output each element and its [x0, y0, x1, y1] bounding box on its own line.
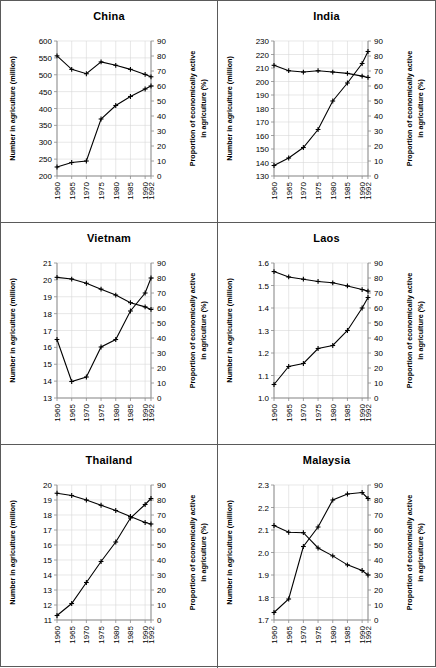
data-point-china-0-4 — [113, 63, 118, 68]
y-tick-left-china-1: 250 — [39, 155, 53, 164]
y-tick-right-laos-5: 50 — [374, 319, 383, 328]
data-point-malaysia-0-1 — [286, 530, 291, 535]
data-point-malaysia-1-5 — [345, 492, 350, 497]
plot-area-thailand: 1112131415161718192001020304050607080901… — [1, 445, 217, 668]
y-axis-right-title-india: Proportion of economically active — [405, 51, 414, 166]
x-tick-china-3: 1975 — [97, 181, 106, 199]
y-tick-left-malaysia-4: 2.1 — [258, 526, 270, 535]
y-tick-right-malaysia-3: 30 — [374, 571, 383, 580]
y-tick-left-laos-5: 1.5 — [258, 282, 270, 291]
y-tick-left-thailand-3: 14 — [43, 571, 52, 580]
y-tick-right-vietnam-8: 80 — [157, 274, 166, 283]
y-tick-left-malaysia-6: 2.3 — [258, 481, 270, 490]
y-tick-left-thailand-4: 15 — [43, 556, 52, 565]
x-tick-india-1: 1965 — [285, 181, 294, 199]
y-tick-left-india-4: 170 — [256, 118, 270, 127]
y-tick-left-laos-0: 1.0 — [258, 394, 270, 403]
y-tick-right-laos-2: 20 — [374, 364, 383, 373]
y-tick-right-china-6: 60 — [157, 82, 166, 91]
data-point-malaysia-0-4 — [330, 553, 335, 558]
y-tick-left-china-0: 200 — [39, 172, 53, 181]
data-point-vietnam-0-6 — [143, 304, 148, 309]
x-tick-vietnam-3: 1975 — [97, 403, 106, 421]
panel-laos: Laos 1.01.11.21.31.41.51.601020304050607… — [218, 223, 435, 445]
data-point-india-0-1 — [286, 68, 291, 73]
x-tick-india-7: 1992 — [364, 181, 373, 199]
y-tick-right-china-3: 30 — [157, 127, 166, 136]
chart-svg-thailand: 1112131415161718192001020304050607080901… — [1, 445, 218, 668]
y-axis-right-title-laos: Proportion of economically active — [405, 273, 414, 388]
y-tick-right-laos-1: 10 — [374, 379, 383, 388]
y-tick-right-laos-8: 80 — [374, 274, 383, 283]
y-tick-right-vietnam-6: 60 — [157, 304, 166, 313]
y-tick-left-china-7: 550 — [39, 54, 53, 63]
chart-svg-malaysia: 1.71.81.92.02.12.22.30102030405060708090… — [218, 445, 435, 668]
y-tick-left-vietnam-6: 19 — [43, 293, 52, 302]
data-point-india-0-4 — [330, 70, 335, 75]
y-tick-right-thailand-6: 60 — [157, 526, 166, 535]
data-point-china-0-5 — [128, 67, 133, 72]
y-tick-right-india-9: 90 — [374, 37, 383, 46]
x-tick-malaysia-1: 1965 — [285, 625, 294, 643]
y-tick-right-malaysia-7: 70 — [374, 511, 383, 520]
y-tick-right-india-8: 80 — [374, 52, 383, 61]
y-tick-right-vietnam-1: 10 — [157, 379, 166, 388]
y-tick-left-india-1: 140 — [256, 159, 270, 168]
x-tick-laos-5: 1985 — [343, 403, 352, 421]
y-tick-right-china-2: 20 — [157, 142, 166, 151]
data-point-malaysia-1-4 — [330, 498, 335, 503]
y-tick-left-china-8: 600 — [39, 37, 53, 46]
x-tick-malaysia-4: 1980 — [329, 625, 338, 643]
data-point-vietnam-0-5 — [128, 300, 133, 305]
y-tick-left-thailand-6: 17 — [43, 526, 52, 535]
y-axis-right-title-cont-laos: in agriculture (%) — [416, 301, 425, 360]
y-axis-right-title-cont-thailand: in agriculture (%) — [199, 523, 208, 582]
data-point-china-1-5 — [128, 94, 133, 99]
y-tick-right-malaysia-4: 40 — [374, 556, 383, 565]
x-tick-malaysia-2: 1970 — [299, 625, 308, 643]
x-tick-thailand-1: 1965 — [68, 625, 77, 643]
y-tick-left-laos-2: 1.2 — [258, 349, 270, 358]
y-tick-right-vietnam-5: 50 — [157, 319, 166, 328]
data-point-thailand-0-6 — [143, 520, 148, 525]
y-tick-right-china-5: 50 — [157, 97, 166, 106]
y-tick-left-laos-4: 1.4 — [258, 304, 270, 313]
y-tick-right-laos-3: 30 — [374, 349, 383, 358]
x-axis-laos: 19601965197019751980198519901992 — [270, 398, 373, 422]
x-tick-laos-1: 1965 — [285, 403, 294, 421]
y-tick-left-india-9: 220 — [256, 51, 270, 60]
x-tick-vietnam-5: 1985 — [126, 403, 135, 421]
data-point-china-1-1 — [69, 160, 74, 165]
y-axis-right-title-cont-china: in agriculture (%) — [199, 79, 208, 138]
x-axis-vietnam: 19601965197019751980198519901992 — [53, 398, 156, 422]
y-tick-right-vietnam-4: 40 — [157, 334, 166, 343]
x-tick-thailand-5: 1985 — [126, 625, 135, 643]
series-laos-proportion — [274, 298, 368, 385]
data-point-vietnam-0-0 — [55, 275, 60, 280]
chart-svg-india: 1301401501601701801902002102202300102030… — [218, 1, 435, 223]
y-axis-left-malaysia: 1.71.81.92.02.12.22.3 — [258, 481, 274, 625]
x-tick-laos-7: 1992 — [364, 403, 373, 421]
y-tick-right-india-6: 60 — [374, 82, 383, 91]
y-tick-left-india-10: 230 — [256, 37, 270, 46]
data-point-thailand-0-0 — [55, 491, 60, 496]
x-tick-china-1: 1965 — [68, 181, 77, 199]
y-tick-right-thailand-4: 40 — [157, 556, 166, 565]
data-point-laos-0-4 — [330, 280, 335, 285]
y-axis-right-thailand: 0102030405060708090 — [151, 481, 166, 625]
y-axis-left-title-laos: Number in agriculture (million) — [225, 278, 234, 383]
gridlines-thailand — [57, 485, 151, 620]
plot-area-malaysia: 1.71.81.92.02.12.22.30102030405060708090… — [218, 445, 435, 668]
y-tick-left-malaysia-0: 1.7 — [258, 616, 270, 625]
y-tick-right-china-7: 70 — [157, 67, 166, 76]
y-axis-left-title-china: Number in agriculture (million) — [8, 56, 17, 161]
gridlines-laos — [274, 263, 368, 398]
series-china-number — [57, 56, 151, 77]
y-tick-left-vietnam-3: 16 — [43, 343, 52, 352]
x-axis-india: 19601965197019751980198519901992 — [270, 176, 373, 200]
y-tick-right-china-1: 10 — [157, 157, 166, 166]
data-point-vietnam-0-2 — [84, 281, 89, 286]
y-tick-left-india-7: 200 — [256, 78, 270, 87]
y-tick-left-thailand-5: 16 — [43, 541, 52, 550]
x-tick-malaysia-7: 1992 — [364, 625, 373, 643]
